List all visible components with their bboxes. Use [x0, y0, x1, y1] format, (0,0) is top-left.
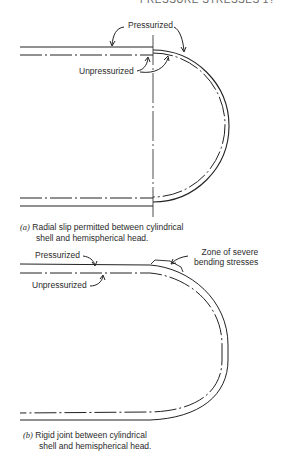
caption-b-tag: (b) — [23, 430, 33, 440]
label-unpressurized-b: Unpressurized — [32, 280, 87, 290]
zone-line2: bending stresses — [194, 257, 258, 267]
caption-b: (b) Rigid joint between cylindrical shel… — [23, 430, 151, 452]
label-zone-severe-bending: Zone of severe bending stresses — [194, 247, 258, 267]
caption-b-line1: Rigid joint between cylindrical — [35, 430, 147, 440]
zone-line1: Zone of severe — [194, 247, 258, 257]
caption-b-line2: shell and hemispherical head. — [23, 441, 151, 452]
label-pressurized-b: Pressurized — [35, 250, 80, 260]
figure-b-drawing — [0, 0, 281, 468]
